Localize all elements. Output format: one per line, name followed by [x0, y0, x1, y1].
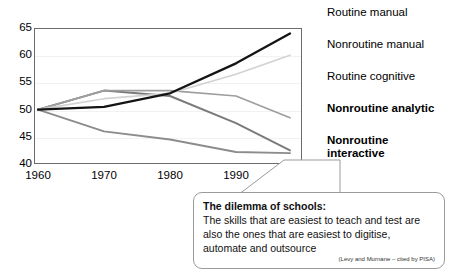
- legend-item-nonroutine-manual: Nonroutine manual: [308, 38, 460, 53]
- legend-item-nonroutine-interactive: Nonroutine interactive: [308, 134, 460, 160]
- legend-label: Routine manual: [327, 6, 408, 19]
- legend-label: Nonroutine manual: [327, 38, 424, 51]
- callout-box: The dilemma of schools: The skills that …: [193, 192, 445, 269]
- legend-label: Nonroutine analytic: [327, 102, 434, 115]
- legend-item-routine-cognitive: Routine cognitive: [308, 70, 460, 85]
- series-layer: [34, 28, 302, 164]
- legend-label: Nonroutine interactive: [327, 134, 388, 160]
- y-tick-label: 65: [4, 22, 32, 34]
- x-tick-label: 1960: [25, 170, 51, 182]
- y-tick-label: 55: [4, 77, 32, 89]
- legend-item-nonroutine-analytic: Nonroutine analytic: [308, 102, 460, 117]
- legend-label: Routine cognitive: [327, 70, 415, 83]
- callout-body: The skills that are easiest to teach and…: [203, 214, 435, 255]
- chart-legend: Routine manual Nonroutine manual Routine…: [308, 6, 460, 177]
- legend-item-routine-manual: Routine manual: [308, 6, 460, 21]
- y-tick-label: 50: [4, 104, 32, 116]
- y-tick-label: 60: [4, 49, 32, 61]
- y-axis: 65 60 55 50 45 40: [0, 0, 32, 273]
- chart-figure: 65 60 55 50 45 40 1960 1970 1980 1990 20…: [0, 0, 463, 273]
- y-tick-label: 45: [4, 131, 32, 143]
- series-line: [38, 55, 290, 109]
- x-tick-label: 1980: [157, 170, 183, 182]
- x-tick-label: 1970: [91, 170, 117, 182]
- callout-source: (Levy and Murnane – cited by PISA): [203, 256, 435, 262]
- callout-title: The dilemma of schools:: [203, 200, 435, 213]
